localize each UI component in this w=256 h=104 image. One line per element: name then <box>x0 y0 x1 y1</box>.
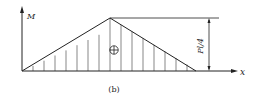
positive-sign-icon <box>110 46 118 54</box>
y-axis-arrow-icon <box>20 6 24 13</box>
x-axis-arrow-icon <box>231 69 238 73</box>
peak-value-label: Pl/4 <box>196 38 205 55</box>
x-axis-label: x <box>240 67 245 77</box>
moment-curve <box>22 18 196 71</box>
y-axis-label: M <box>26 12 36 21</box>
dimension-arrow-top-icon <box>208 18 211 23</box>
dimension-arrow-bottom-icon <box>208 66 211 71</box>
hatch-lines <box>33 18 187 71</box>
moment-diagram: x M Pl/4 (b) <box>0 0 256 104</box>
figure-caption: (b) <box>108 85 119 94</box>
